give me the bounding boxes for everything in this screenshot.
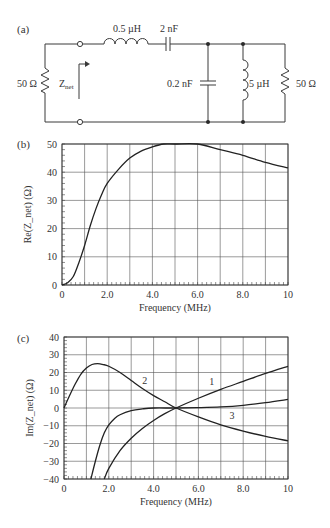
- x-tick-label: 6.0: [192, 483, 205, 494]
- label-shunt-inductor: 5 µH: [249, 78, 269, 89]
- circuit-panel: (a): [17, 23, 316, 125]
- node-dot: [241, 42, 245, 46]
- curve-label: 3: [230, 410, 235, 421]
- y-tick-label: 40: [49, 332, 59, 343]
- node-dot: [206, 120, 210, 124]
- load-resistor-symbol: [281, 44, 289, 122]
- series-line-1: [104, 366, 288, 479]
- y-tick-label: 30: [47, 195, 57, 206]
- source-resistor-symbol: [41, 68, 49, 122]
- panel-label-a: (a): [17, 23, 30, 36]
- panel-label-b: (b): [17, 138, 30, 151]
- x-tick-label: 2.0: [103, 483, 116, 494]
- x-tick-label: 10: [283, 483, 293, 494]
- y-tick-label: 0: [54, 403, 59, 414]
- chart-imag-part: (c) 02.04.06.08.010403020100−10−20−30−40…: [17, 332, 293, 509]
- x-tick-label: 10: [283, 289, 293, 300]
- label-source-resistor: 50 Ω: [17, 78, 37, 89]
- y-tick-label: 10: [47, 251, 57, 262]
- series-inductor-symbol: [104, 39, 148, 45]
- y-tick-label: 20: [49, 367, 59, 378]
- shunt-capacitor-symbol: [200, 44, 216, 122]
- x-axis-label: Frequency (MHz): [139, 302, 211, 314]
- x-tick-label: 0: [62, 483, 67, 494]
- terminal-top: [77, 41, 82, 46]
- series-capacitor-symbol: [166, 37, 170, 51]
- label-series-inductor: 0.5 µH: [113, 23, 141, 34]
- y-tick-label: 40: [47, 167, 57, 178]
- panel-label-c: (c): [17, 332, 30, 345]
- arrow-head-icon: [85, 61, 90, 67]
- y-tick-label: 0: [52, 280, 57, 291]
- node-dot: [206, 42, 210, 46]
- label-shunt-capacitor: 0.2 nF: [167, 78, 193, 89]
- x-tick-label: 4.0: [146, 289, 159, 300]
- x-tick-label: 6.0: [191, 289, 204, 300]
- x-tick-label: 4.0: [147, 483, 160, 494]
- y-axis-label: Im(Z_net) (Ω): [24, 379, 36, 437]
- y-axis-label: Re(Z_net) (Ω): [22, 186, 34, 244]
- series-line-3: [91, 399, 288, 479]
- y-tick-label: 20: [47, 223, 57, 234]
- y-tick-label: −10: [43, 420, 59, 431]
- x-tick-label: 0: [60, 289, 65, 300]
- curve-label: 1: [209, 376, 214, 387]
- y-tick-label: 10: [49, 385, 59, 396]
- curve-label: 2: [142, 375, 147, 386]
- znet-arrow: [79, 64, 86, 99]
- shunt-inductor-symbol: [243, 44, 248, 122]
- label-znet: Znet: [59, 78, 74, 91]
- x-tick-label: 2.0: [101, 289, 114, 300]
- figure: (a): [0, 0, 330, 528]
- label-load-resistor: 50 Ω: [296, 78, 316, 89]
- y-tick-label: −30: [43, 456, 59, 467]
- y-tick-label: −40: [43, 474, 59, 485]
- grid: [62, 144, 288, 285]
- x-axis-label: Frequency (MHz): [140, 496, 212, 508]
- x-tick-label: 8.0: [237, 289, 250, 300]
- terminal-bottom: [77, 119, 82, 124]
- y-tick-label: −20: [43, 438, 59, 449]
- y-tick-label: 50: [47, 139, 57, 150]
- x-tick-label: 8.0: [237, 483, 250, 494]
- label-series-capacitor: 2 nF: [160, 23, 179, 34]
- node-dot: [241, 120, 245, 124]
- chart-real-part: (b) 02.04.06.08.01001020304050Frequency …: [17, 138, 293, 314]
- y-tick-label: 30: [49, 349, 59, 360]
